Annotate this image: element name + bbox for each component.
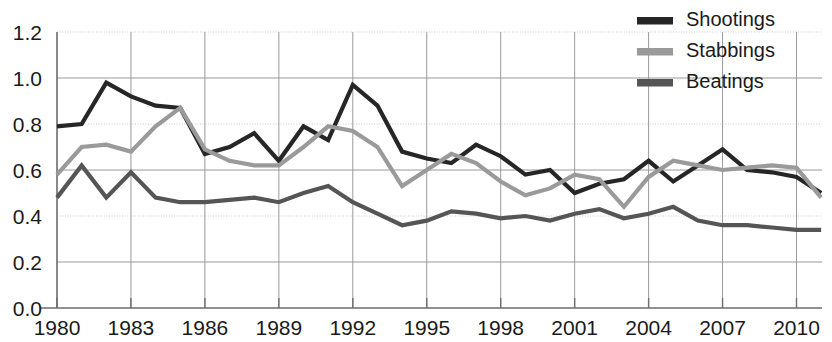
x-tick-label: 1995	[403, 316, 450, 339]
x-axis-tick-labels: 1980198319861989199219951998200120042007…	[34, 316, 820, 339]
y-tick-label: 0.2	[13, 251, 42, 274]
line-chart: 0.00.20.40.60.81.01.2 198019831986198919…	[0, 0, 832, 342]
series-line-shootings	[57, 83, 821, 193]
x-tick-label: 2007	[699, 316, 746, 339]
y-tick-label: 0.6	[13, 159, 42, 182]
y-tick-label: 1.2	[13, 21, 42, 44]
y-tick-label: 1.0	[13, 67, 42, 90]
chart-legend: ShootingsStabbingsBeatings	[637, 8, 775, 92]
x-tick-label: 1983	[108, 316, 155, 339]
legend-label-shootings: Shootings	[686, 8, 775, 30]
legend-swatch-shootings	[637, 17, 673, 25]
x-tick-label: 1992	[329, 316, 376, 339]
chart-series	[57, 83, 821, 230]
y-tick-label: 0.4	[13, 205, 43, 228]
x-tick-label: 2004	[625, 316, 672, 339]
x-tick-label: 1989	[255, 316, 302, 339]
axis-tick-marks	[57, 298, 797, 308]
legend-swatch-beatings	[637, 79, 673, 87]
y-axis-tick-labels: 0.00.20.40.60.81.01.2	[13, 21, 43, 320]
series-line-beatings	[57, 165, 821, 229]
x-tick-label: 1998	[477, 316, 524, 339]
legend-swatch-stabbings	[637, 48, 673, 56]
x-tick-label: 1986	[182, 316, 229, 339]
legend-label-stabbings: Stabbings	[686, 39, 775, 61]
x-tick-label: 1980	[34, 316, 81, 339]
y-tick-label: 0.8	[13, 113, 42, 136]
x-tick-label: 2001	[551, 316, 598, 339]
legend-label-beatings: Beatings	[686, 70, 764, 92]
chart-plot-area: 0.00.20.40.60.81.01.2 198019831986198919…	[0, 0, 832, 342]
x-tick-label: 2010	[773, 316, 820, 339]
